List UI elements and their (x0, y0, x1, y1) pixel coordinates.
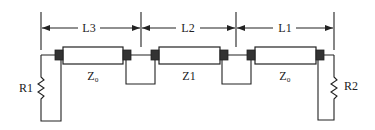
cable-segment-3: Z₀ (247, 47, 324, 83)
shield-jumper-2 (222, 60, 251, 84)
shield-jumper-1 (126, 60, 155, 84)
connector-icon (220, 50, 228, 60)
connector-icon (247, 50, 255, 60)
cable-body (63, 47, 123, 64)
cable-diagram: L3 L2 L1 Z₀ Z1 Z₀ R1 (0, 0, 375, 130)
termination-r2: R2 (318, 55, 358, 120)
connector-icon (55, 50, 63, 60)
cable-body (255, 47, 316, 64)
cable-body (159, 47, 220, 64)
dimension-label-l3: L3 (82, 21, 95, 35)
connector-icon (151, 50, 159, 60)
resistor-icon (318, 55, 337, 120)
impedance-label: Z1 (182, 69, 195, 83)
resistor-label-r1: R1 (19, 81, 33, 95)
dimension-l2: L2 (142, 21, 235, 35)
resistor-icon (38, 55, 61, 121)
impedance-label: Z₀ (279, 69, 291, 83)
dimension-l3: L3 (42, 21, 140, 35)
dimension-l1: L1 (237, 21, 333, 35)
connector-icon (123, 50, 131, 60)
termination-r1: R1 (19, 55, 61, 121)
dimension-label-l1: L1 (278, 21, 291, 35)
resistor-label-r2: R2 (344, 79, 358, 93)
impedance-label: Z₀ (87, 69, 99, 83)
cable-segment-1: Z₀ (55, 47, 131, 83)
cable-segment-2: Z1 (151, 47, 228, 83)
connector-icon (316, 50, 324, 60)
dimension-label-l2: L2 (181, 21, 194, 35)
